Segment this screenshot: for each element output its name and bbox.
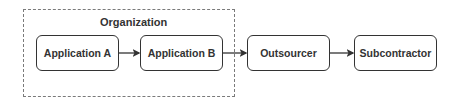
edges-layer xyxy=(0,0,458,103)
